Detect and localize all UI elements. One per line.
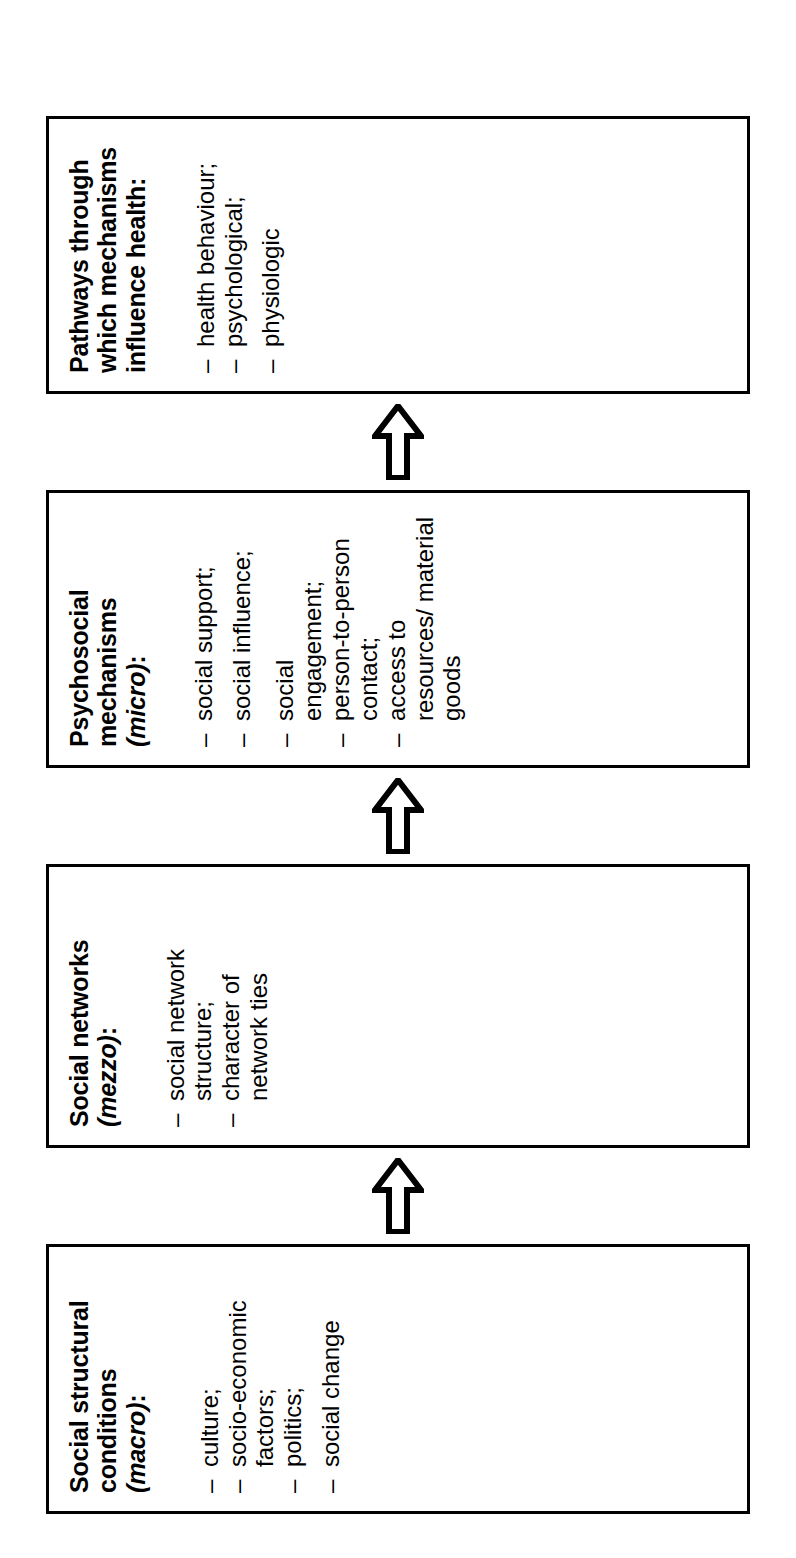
arrow-up-icon <box>372 1158 424 1234</box>
box-title-macro: Social structural conditions (macro): <box>65 1267 150 1493</box>
list-item: psychological; <box>220 139 248 373</box>
list-item: socio-economic factors; <box>224 1267 280 1493</box>
box-title-macro-colon: : <box>122 1395 150 1403</box>
box-title-mezzo-text: Social networks <box>65 940 93 1127</box>
list-item: social engagement; <box>271 513 327 747</box>
list-item: social influence; <box>228 513 256 747</box>
box-title-micro-scale: (micro) <box>122 664 150 747</box>
list-item: politics; <box>279 1267 307 1493</box>
box-title-macro-text: Social structural conditions <box>65 1301 121 1494</box>
list-item: physiologic <box>257 139 285 373</box>
box-title-pathways: Pathways through which mechanisms influe… <box>65 139 150 373</box>
list-item: character of network ties <box>217 887 273 1127</box>
list-item: culture; <box>196 1267 224 1493</box>
box-title-mezzo-colon: : <box>93 1027 121 1035</box>
box-list-pathways: health behaviour; psychological; physiol… <box>192 139 285 373</box>
box-title-mezzo: Social networks (mezzo): <box>65 887 122 1127</box>
box-list-mezzo: social network structure; character of n… <box>162 887 273 1127</box>
list-item: access to resources/ material goods <box>383 513 466 747</box>
box-title-micro-colon: : <box>122 656 150 664</box>
flow-box-macro: Social structural conditions (macro): cu… <box>46 1244 750 1514</box>
list-item: person-to-person contact; <box>327 513 383 747</box>
box-list-macro: culture; socio-economic factors; politic… <box>196 1267 345 1493</box>
box-title-micro: Psychosocial mechanisms (micro): <box>65 513 150 747</box>
flow-box-pathways: Pathways through which mechanisms influe… <box>46 116 750 394</box>
flow-diagram: Social structural conditions (macro): cu… <box>0 0 796 1558</box>
flow-box-micro: Psychosocial mechanisms (micro): social … <box>46 490 750 768</box>
box-title-macro-scale: (macro) <box>122 1403 150 1493</box>
list-item: health behaviour; <box>192 139 220 373</box>
box-list-micro: social support; social influence; social… <box>190 513 466 747</box>
list-item: social support; <box>190 513 218 747</box>
list-item: social network structure; <box>162 887 218 1127</box>
flow-box-mezzo: Social networks (mezzo): social network … <box>46 864 750 1148</box>
arrow-up-icon <box>372 404 424 480</box>
box-title-mezzo-scale: (mezzo) <box>93 1035 121 1127</box>
list-item: social change <box>317 1267 345 1493</box>
box-title-micro-text: Psychosocial mechanisms <box>65 590 121 747</box>
arrow-up-icon <box>372 778 424 854</box>
